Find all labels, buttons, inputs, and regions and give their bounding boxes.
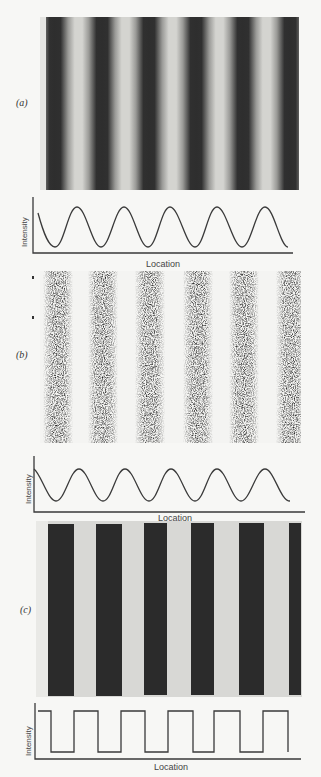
square-profile-c xyxy=(0,700,321,762)
sine-profile-a xyxy=(0,195,321,260)
x-axis-label-c: Location xyxy=(154,762,188,772)
y-axis-label-b: Intensity xyxy=(24,474,33,504)
y-axis-label-a: Intensity xyxy=(20,217,29,247)
intensity-graph-c: Intensity Location xyxy=(0,700,321,777)
grating-photo-sine xyxy=(40,17,299,190)
grating-photo-square xyxy=(36,521,302,697)
panel-label-c: (c) xyxy=(20,604,31,615)
intensity-graph-b: Intensity Location xyxy=(0,452,321,527)
speck-mark xyxy=(32,276,34,279)
grating-photo-noisy xyxy=(40,271,301,443)
panel-label-b: (b) xyxy=(16,349,28,360)
panel-label-a: (a) xyxy=(16,97,28,108)
sine-profile-b xyxy=(0,452,321,516)
x-axis-label-a: Location xyxy=(146,259,180,269)
y-axis-label-c: Intensity xyxy=(24,726,33,756)
intensity-graph-a: Intensity Location xyxy=(0,195,321,275)
speck-mark xyxy=(32,316,34,319)
